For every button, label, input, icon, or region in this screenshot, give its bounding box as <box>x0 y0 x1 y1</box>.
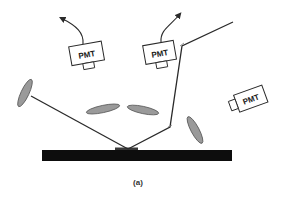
middle-lens-left <box>86 102 121 116</box>
middle-lens-right <box>127 103 160 117</box>
reflected-beam <box>128 22 233 149</box>
right-lens <box>184 115 205 145</box>
left-lens <box>15 78 35 109</box>
sample-base <box>42 150 232 161</box>
signal-arrow-1 <box>61 18 83 44</box>
signal-arrow-2 <box>161 14 180 42</box>
optical-setup-diagram: PMT PMT PMT (a) <box>0 0 286 198</box>
pmt-detector-3: PMT <box>227 85 268 115</box>
figure-label: (a) <box>133 178 143 187</box>
pmt-detector-2: PMT <box>143 40 178 70</box>
pmt-detector-1: PMT <box>69 41 106 71</box>
